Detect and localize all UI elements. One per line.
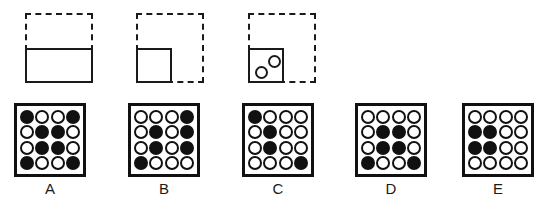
filled-circle-icon (407, 156, 421, 170)
open-circle-icon (20, 125, 34, 139)
open-circle-icon (499, 156, 513, 170)
open-circle-icon (361, 141, 375, 155)
filled-circle-icon (294, 156, 308, 170)
open-circle-icon (35, 156, 49, 170)
open-circle-icon (149, 156, 163, 170)
answer-label-d: D (355, 180, 427, 197)
open-circle-icon (165, 156, 179, 170)
open-circle-icon (499, 141, 513, 155)
open-circle-icon (279, 156, 293, 170)
filled-circle-icon (392, 125, 406, 139)
filled-circle-icon (392, 141, 406, 155)
open-circle-icon (165, 141, 179, 155)
open-circle-icon (134, 125, 148, 139)
filled-circle-icon (20, 110, 34, 124)
open-circle-icon (468, 156, 482, 170)
filled-circle-icon (66, 156, 80, 170)
filled-circle-icon (51, 125, 65, 139)
open-circle-icon (51, 156, 65, 170)
open-circle-icon (263, 110, 277, 124)
solid-region-bottom-half-wide-rectangle (25, 48, 93, 83)
open-circle-icon (407, 125, 421, 139)
filled-circle-icon (149, 125, 163, 139)
open-circle-icon (483, 156, 497, 170)
filled-circle-icon (51, 141, 65, 155)
open-circle-icon (248, 141, 262, 155)
open-circle-icon (361, 110, 375, 124)
open-circle-icon (294, 110, 308, 124)
answer-option-d[interactable]: D (341, 95, 453, 210)
open-circle-icon (279, 141, 293, 155)
open-circle-icon (376, 156, 390, 170)
open-circle-icon (51, 110, 65, 124)
open-circle-icon (376, 110, 390, 124)
open-circle-icon (279, 110, 293, 124)
filled-circle-icon (263, 141, 277, 155)
open-circle-icon (279, 125, 293, 139)
open-circle-icon (35, 110, 49, 124)
open-circle-icon (180, 156, 194, 170)
open-circle-icon (248, 125, 262, 139)
filled-circle-icon (468, 141, 482, 155)
open-circle-icon (134, 110, 148, 124)
open-circle-icon (468, 110, 482, 124)
filled-circle-icon (35, 141, 49, 155)
prompt-shape-2 (111, 0, 223, 95)
open-circle-icon (20, 141, 34, 155)
open-circle-icon (149, 110, 163, 124)
open-circle-icon (165, 125, 179, 139)
filled-circle-icon (35, 125, 49, 139)
answer-label-c: C (242, 180, 314, 197)
open-circle-icon (361, 125, 375, 139)
answer-label-a: A (14, 180, 86, 197)
dot-matrix-a[interactable] (14, 103, 86, 177)
filled-circle-icon (149, 141, 163, 155)
answer-options-row: ABCDE (0, 95, 556, 210)
filled-circle-icon (66, 110, 80, 124)
dot-matrix-c[interactable] (242, 103, 314, 177)
filled-circle-icon (180, 110, 194, 124)
open-circle-icon (499, 110, 513, 124)
filled-circle-icon (361, 156, 375, 170)
open-circle-icon (66, 125, 80, 139)
dot-matrix-b[interactable] (128, 103, 200, 177)
open-circle-icon (483, 110, 497, 124)
filled-circle-icon (483, 141, 497, 155)
filled-circle-icon (20, 156, 34, 170)
open-circle-icon (514, 125, 528, 139)
filled-circle-icon (376, 141, 390, 155)
open-circle-icon (294, 125, 308, 139)
open-circle-icon (499, 125, 513, 139)
filled-circle-icon (263, 125, 277, 139)
dot-matrix-e[interactable] (462, 103, 534, 177)
prompt-shape-row (0, 0, 556, 95)
open-circle-icon (407, 141, 421, 155)
answer-option-e[interactable]: E (448, 95, 556, 210)
answer-label-b: B (128, 180, 200, 197)
answer-label-e: E (462, 180, 534, 197)
solid-region-bottom-left-small-square (136, 48, 172, 83)
open-circle-icon (392, 156, 406, 170)
filled-circle-icon (134, 156, 148, 170)
open-circle-icon (263, 156, 277, 170)
puzzle-figure: { "figure": { "kind": "matrix-reasoning-… (0, 0, 556, 210)
dot-matrix-d[interactable] (355, 103, 427, 177)
filled-circle-icon (180, 125, 194, 139)
open-circle-icon (514, 141, 528, 155)
filled-circle-icon (468, 125, 482, 139)
open-circle-icon (255, 66, 268, 79)
answer-option-c[interactable]: C (228, 95, 340, 210)
answer-option-a[interactable]: A (0, 95, 112, 210)
open-circle-icon (514, 110, 528, 124)
open-circle-icon (248, 156, 262, 170)
filled-circle-icon (248, 110, 262, 124)
filled-circle-icon (483, 125, 497, 139)
filled-circle-icon (376, 125, 390, 139)
open-circle-icon (134, 141, 148, 155)
solid-region-bottom-left-small-square (248, 48, 284, 83)
open-circle-icon (407, 110, 421, 124)
open-circle-icon (392, 110, 406, 124)
answer-option-b[interactable]: B (114, 95, 226, 210)
open-circle-icon (514, 156, 528, 170)
open-circle-icon (165, 110, 179, 124)
